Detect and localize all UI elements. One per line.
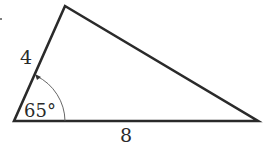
triangle-diagram: 4 65° 8	[0, 0, 270, 145]
arc-arrowhead-icon	[35, 74, 41, 80]
side-label-left: 4	[20, 46, 32, 68]
stray-dot	[0, 18, 2, 20]
angle-label: 65°	[24, 100, 56, 121]
base-label: 8	[120, 124, 132, 145]
